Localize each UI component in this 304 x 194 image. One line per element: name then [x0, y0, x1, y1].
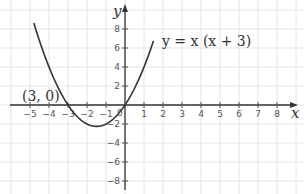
equation-label: y = x (x + 3)	[161, 33, 251, 49]
y-tick-label: −6	[107, 157, 121, 167]
x-axis-label: x	[291, 104, 300, 122]
y-axis-arrow	[122, 4, 128, 12]
x-tick-label: −4	[42, 109, 56, 119]
y-tick-label: 4	[114, 62, 120, 72]
x-tick-label: −2	[80, 109, 93, 119]
x-tick-label: 4	[198, 109, 204, 119]
y-axis-label: y	[112, 2, 122, 20]
y-tick-label: 8	[114, 24, 120, 34]
y-tick-label: −8	[107, 176, 121, 186]
x-tick-label: 2	[160, 109, 166, 119]
x-tick-label: 6	[236, 109, 242, 119]
x-tick-label: 7	[255, 109, 261, 119]
point-annotation: (3, 0)	[22, 88, 60, 104]
chart: −5−4−3−2−1123456788642−2−4−6−8 x y 0 (3,…	[0, 0, 304, 194]
x-tick-label: −1	[99, 109, 112, 119]
x-tick-label: 3	[179, 109, 185, 119]
y-tick-label: 2	[114, 81, 120, 91]
x-tick-label: 5	[217, 109, 223, 119]
y-tick-label: 6	[114, 43, 120, 53]
origin-label: 0	[117, 108, 123, 118]
y-tick-label: −4	[107, 138, 121, 148]
x-tick-label: −5	[23, 109, 36, 119]
y-tick-label: −2	[107, 119, 120, 129]
x-tick-label: 1	[141, 109, 147, 119]
x-tick-label: 8	[274, 109, 280, 119]
